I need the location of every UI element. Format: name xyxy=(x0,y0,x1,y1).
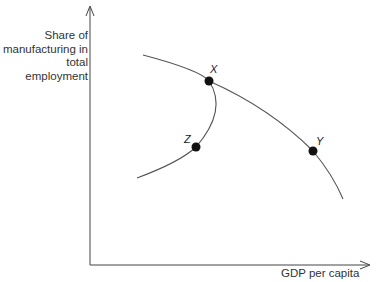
y-axis-label-line: Share of xyxy=(3,29,88,43)
y-axis-label: Share of manufacturing in total employme… xyxy=(3,29,88,83)
point-z xyxy=(192,143,201,152)
z-curve xyxy=(137,81,216,178)
y-axis-label-line: manufacturing in xyxy=(3,43,88,57)
point-y-label: Y xyxy=(316,135,323,147)
main-curve xyxy=(143,55,343,199)
y-axis-label-line: employment xyxy=(3,70,88,84)
point-y xyxy=(309,147,318,156)
y-axis-label-line: total xyxy=(3,56,88,70)
point-x-label: X xyxy=(210,63,217,75)
point-z-label: Z xyxy=(184,133,191,145)
x-axis-label: GDP per capita xyxy=(281,267,359,279)
point-x xyxy=(205,77,214,86)
